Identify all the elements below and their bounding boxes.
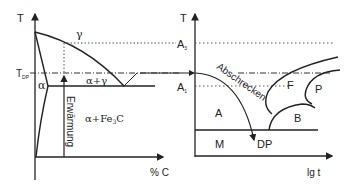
bainite-label: B	[294, 112, 301, 124]
bainite-curve	[269, 104, 315, 130]
austenite-label: A	[215, 107, 223, 119]
right-y-axis-label: T	[180, 12, 187, 24]
heating-label: Erwärmung	[65, 96, 76, 147]
tdp-label: TDP	[16, 68, 30, 80]
ferrite-label: F	[287, 79, 294, 91]
ttt-diagram: T A3 A1 Abschrecken A F P B M DP lg t	[177, 12, 340, 178]
alpha-solvus	[36, 86, 48, 157]
martensite-label: M	[215, 138, 224, 150]
eutectoid-tick	[124, 73, 137, 86]
pearlite-label: P	[315, 83, 322, 95]
a3-label: A3	[177, 38, 187, 51]
alpha-label: α	[38, 79, 46, 92]
alpha-fe3c-label: α+Fe3C	[85, 113, 124, 125]
alpha-boundary-upper	[35, 32, 48, 86]
phase-diagram: T TDP γ α α+γ α+Fe3C Erwärmung % C	[16, 12, 180, 180]
diagram-canvas: T TDP γ α α+γ α+Fe3C Erwärmung % C T A3 …	[0, 0, 355, 187]
left-y-axis-label: T	[17, 12, 24, 24]
gamma-label: γ	[76, 28, 83, 41]
alpha-gamma-label: α+γ	[86, 75, 107, 86]
dp-label: DP	[257, 138, 272, 150]
ferrite-start-curve	[266, 57, 338, 114]
left-x-axis-label: % C	[150, 167, 169, 178]
a1-label: A1	[177, 81, 187, 94]
pearlite-start-curve	[305, 70, 340, 104]
right-x-axis-label: lg t	[307, 167, 321, 178]
